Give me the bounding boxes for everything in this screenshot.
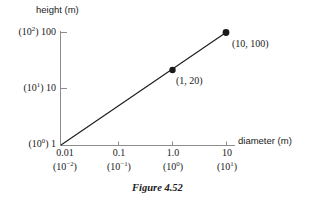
y-tick-exp-100: 2	[32, 25, 35, 32]
x-tick-power-0.1: (10−1)	[99, 161, 139, 172]
x-axis-title: diameter (m)	[238, 135, 292, 146]
y-tick-power-10: (101)	[23, 82, 43, 93]
x-tick-label-10: 10	[207, 147, 247, 158]
y-tick-label-10: (101) 10	[0, 82, 56, 93]
y-tick-power-100: (102)	[18, 26, 38, 37]
y-axis-title: height (m)	[36, 4, 79, 15]
x-tick-power-10: (101)	[207, 161, 247, 172]
figure-caption: Figure 4.52	[0, 182, 315, 193]
x-tick-label-1.0: 1.0	[153, 147, 193, 158]
x-tick-exp-1.0: 0	[176, 160, 179, 167]
data-line	[61, 33, 226, 146]
x-tick-label-0.01: 0.01	[45, 147, 85, 158]
x-tick-power-0.01: (10−2)	[45, 161, 85, 172]
y-tick-label-100: (102) 100	[0, 26, 56, 37]
x-tick-power-1.0: (100)	[153, 161, 193, 172]
x-tick-exp-0.1: −1	[120, 160, 127, 167]
point-annotation-10-100: (10, 100)	[232, 38, 269, 49]
figure-container: height (m) diameter (m) (102) 100 (101) …	[0, 0, 315, 203]
y-tick-value-10: 10	[46, 82, 56, 93]
x-tick-exp-10: 1	[230, 160, 233, 167]
data-point-1-20	[169, 67, 175, 73]
point-annotation-1-20: (1, 20)	[176, 75, 203, 86]
x-tick-label-0.1: 0.1	[99, 147, 139, 158]
y-tick-value-100: 100	[41, 26, 56, 37]
y-tick-exp-1: 0	[42, 137, 45, 144]
x-tick-exp-0.01: −2	[66, 160, 73, 167]
y-tick-exp-10: 1	[37, 81, 40, 88]
data-point-10-100	[223, 29, 230, 36]
